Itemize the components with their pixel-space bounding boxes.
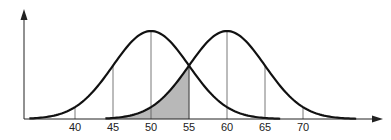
normal-curves-chart: 40455055606570 (0, 0, 391, 140)
x-tick-label: 50 (145, 121, 157, 133)
x-tick-label: 55 (183, 121, 195, 133)
x-tick-label: 65 (259, 121, 271, 133)
curve-mean-60 (105, 31, 356, 119)
x-tick-label: 60 (221, 121, 233, 133)
x-tick-label: 45 (107, 121, 119, 133)
x-tick-label: 40 (69, 121, 81, 133)
y-axis (21, 9, 28, 119)
y-axis-arrow-icon (21, 9, 28, 20)
x-tick-label: 70 (297, 121, 309, 133)
x-axis-arrow-icon (372, 116, 383, 123)
x-tick-labels: 40455055606570 (69, 121, 309, 133)
